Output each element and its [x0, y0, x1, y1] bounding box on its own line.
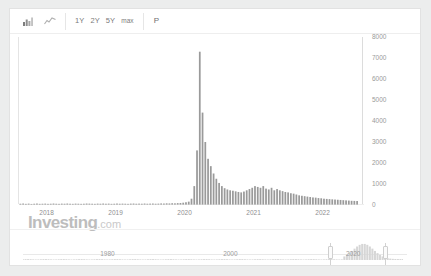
chart-bar — [193, 186, 195, 205]
x-axis-tick-label: 2018 — [39, 210, 53, 217]
chart-bar — [210, 166, 212, 205]
chart-bar — [331, 199, 333, 205]
chart-toolbar: 1Y 2Y 5Y max P — [10, 9, 420, 34]
chart-bar — [301, 196, 303, 205]
chart-bar — [290, 193, 292, 205]
x-axis-tick-label: 2022 — [315, 210, 329, 217]
chart-bar — [227, 189, 229, 205]
chart-bar — [251, 188, 253, 205]
chart-bar — [282, 191, 284, 205]
chart-bar — [296, 195, 298, 206]
x-axis-labels: 20182019202020212022 — [19, 210, 364, 224]
chart-bar — [337, 200, 339, 205]
x-axis-tick-label: 2019 — [108, 210, 122, 217]
y-axis-tick-label: 0 — [372, 202, 376, 209]
chart-bar — [315, 198, 317, 205]
chart-bar — [309, 197, 311, 205]
x-axis-tick-label: 2021 — [246, 210, 260, 217]
price-bar-series — [19, 37, 364, 205]
chart-bar — [271, 188, 273, 205]
chart-bar — [229, 190, 231, 205]
bar-chart-icon[interactable] — [19, 13, 37, 30]
chart-bar — [260, 188, 262, 205]
chart-bar — [353, 201, 355, 205]
chart-bar — [284, 192, 286, 205]
chart-bar — [351, 201, 353, 205]
chart-bar — [249, 189, 251, 205]
chart-bar — [268, 189, 270, 205]
chart-bar — [329, 199, 331, 205]
chart-bar — [202, 113, 204, 205]
chart-bar — [348, 201, 350, 205]
toolbar-divider-1 — [65, 13, 66, 30]
chart-bar — [340, 200, 342, 205]
chart-bar — [307, 197, 309, 205]
chart-bar — [221, 186, 223, 205]
chart-bar — [262, 186, 264, 205]
chart-bar — [320, 198, 322, 205]
chart-bar — [326, 199, 328, 205]
chart-bar — [298, 195, 300, 205]
y-axis-tick-label: 6000 — [372, 76, 386, 83]
y-axis-tick-label: 2000 — [372, 160, 386, 167]
chart-bar — [257, 187, 259, 205]
navigator-tick-label: 1980 — [100, 251, 114, 258]
chart-bar — [238, 192, 240, 205]
toolbar-divider-2 — [143, 13, 144, 30]
chart-bar — [276, 189, 278, 205]
chart-plot-area[interactable]: 010002000300040005000600070008000 201820… — [10, 34, 420, 230]
chart-bar — [345, 200, 347, 205]
chart-bar — [204, 142, 206, 205]
y-axis-labels: 010002000300040005000600070008000 — [366, 37, 414, 205]
y-axis-tick-label: 5000 — [372, 97, 386, 104]
chart-bar — [196, 150, 198, 205]
line-chart-icon[interactable] — [41, 13, 59, 30]
chart-bar — [342, 200, 344, 205]
chart-bar — [224, 188, 226, 205]
chart-bar — [232, 191, 234, 205]
chart-bar — [312, 197, 314, 205]
chart-bar — [273, 190, 275, 205]
chart-card: 1Y 2Y 5Y max P 0100020003000400050006000… — [9, 8, 421, 266]
chart-bar — [265, 189, 267, 205]
chart-bar — [323, 199, 325, 205]
chart-bar — [218, 183, 220, 205]
chart-bar — [246, 190, 248, 205]
y-axis-tick-label: 3000 — [372, 139, 386, 146]
chart-bar — [356, 201, 358, 205]
navigator-axis-labels: 198020002020 — [23, 251, 407, 263]
chart-bar — [318, 198, 320, 205]
range-button-1y[interactable]: 1Y — [72, 15, 87, 27]
chart-bar — [215, 179, 217, 205]
percent-group: P — [150, 9, 163, 33]
chart-bar — [207, 159, 209, 205]
y-axis-tick-label: 7000 — [372, 55, 386, 62]
y-axis-tick-label: 1000 — [372, 181, 386, 188]
chart-bar — [293, 194, 295, 205]
chart-bar — [213, 174, 215, 206]
chart-bar — [304, 196, 306, 205]
chart-type-group — [10, 9, 59, 33]
range-button-5y[interactable]: 5Y — [103, 15, 118, 27]
range-button-max[interactable]: max — [118, 16, 137, 27]
chart-bar — [191, 199, 193, 205]
y-axis-tick-label: 8000 — [372, 34, 386, 41]
y-axis-tick-label: 4000 — [372, 118, 386, 125]
screenshot-root: 1Y 2Y 5Y max P 0100020003000400050006000… — [0, 0, 431, 276]
x-axis-tick-label: 2020 — [177, 210, 191, 217]
chart-bar — [199, 52, 201, 205]
chart-bar — [287, 192, 289, 205]
chart-navigator[interactable]: 198020002020 — [10, 229, 420, 265]
chart-bar — [334, 200, 336, 205]
chart-bar — [243, 192, 245, 205]
chart-bar — [279, 190, 281, 205]
navigator-tick-label: 2000 — [223, 251, 237, 258]
navigator-tick-label: 2020 — [346, 251, 360, 258]
chart-bar — [235, 191, 237, 205]
percent-toggle-button[interactable]: P — [150, 15, 163, 27]
chart-bar — [188, 202, 190, 205]
range-buttons-group: 1Y 2Y 5Y max — [72, 9, 137, 33]
chart-bar — [254, 186, 256, 205]
chart-bar — [240, 192, 242, 205]
range-button-2y[interactable]: 2Y — [87, 15, 102, 27]
